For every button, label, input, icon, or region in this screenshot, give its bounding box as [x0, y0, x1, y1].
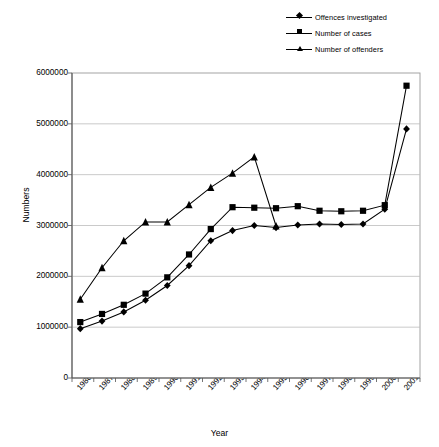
square-data-marker — [77, 319, 83, 325]
line-chart: Offences investigated Number of cases Nu… — [0, 0, 439, 447]
square-data-marker — [121, 302, 127, 308]
square-data-marker — [251, 205, 257, 211]
square-data-marker — [208, 226, 214, 232]
square-data-marker — [229, 204, 235, 210]
square-data-marker — [295, 203, 301, 209]
square-data-marker — [382, 202, 388, 208]
square-data-marker — [316, 208, 322, 214]
plot-area — [0, 0, 439, 447]
square-data-marker — [164, 274, 170, 280]
square-data-marker — [338, 208, 344, 214]
square-data-marker — [360, 208, 366, 214]
square-data-marker — [273, 205, 279, 211]
square-data-marker — [99, 311, 105, 317]
square-data-marker — [403, 83, 409, 89]
square-data-marker — [186, 251, 192, 257]
square-data-marker — [142, 291, 148, 297]
